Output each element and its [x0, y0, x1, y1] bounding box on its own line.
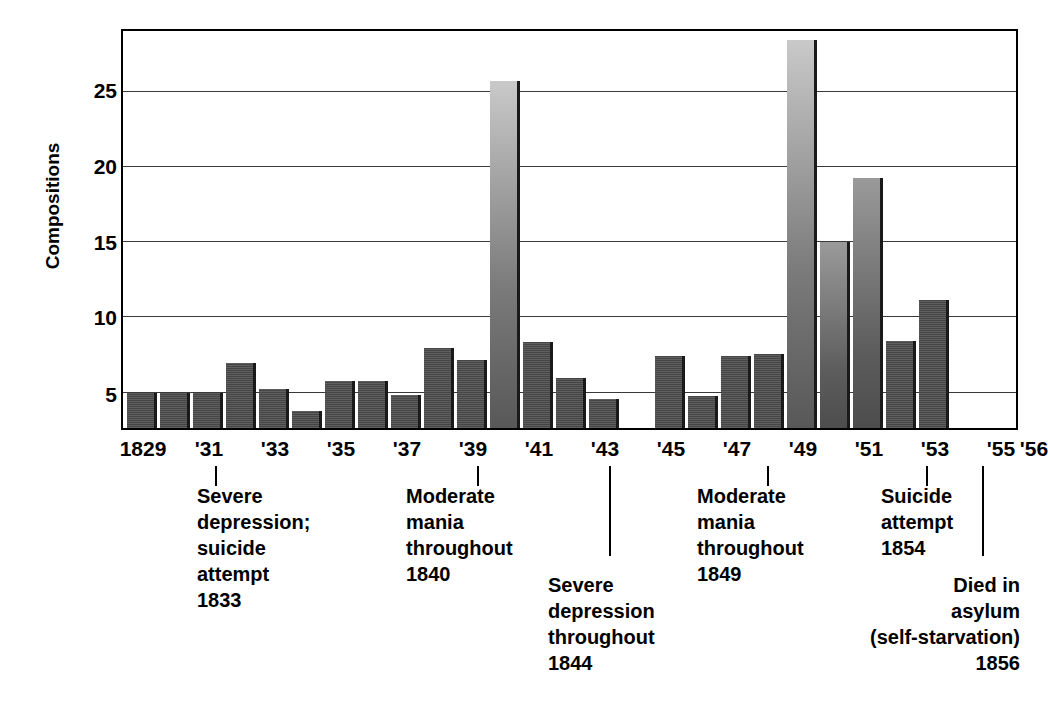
bar-1833: [259, 389, 289, 428]
bar-1849: [787, 40, 817, 428]
bar-series: [123, 31, 1016, 428]
y-axis-tick-labels: 25 20 15 10 5: [61, 29, 117, 430]
x-tick-1835: '35: [327, 437, 355, 461]
bar-1847: [721, 356, 751, 428]
x-tick-1837: '37: [393, 437, 421, 461]
plot-area: [121, 29, 1018, 430]
bar-1829: [127, 393, 157, 428]
bar-1846: [688, 396, 718, 428]
x-tick-1855: '55: [987, 437, 1015, 461]
bar-1834: [292, 411, 322, 428]
bar-1836: [358, 381, 388, 428]
x-tick-1845: '45: [657, 437, 685, 461]
x-tick-1843: '43: [591, 437, 619, 461]
bar-1850: [820, 242, 850, 428]
bar-1838: [424, 348, 454, 428]
x-tick-1851: '51: [855, 437, 883, 461]
y-tick-20: 20: [71, 155, 117, 176]
y-tick-25: 25: [71, 79, 117, 100]
bar-1851: [853, 178, 883, 428]
bar-1853: [919, 300, 949, 428]
y-tick-15: 15: [71, 231, 117, 252]
bar-1840: [490, 81, 520, 428]
annotation-1833: Severe depression; suicide attempt 1833: [197, 483, 310, 613]
bar-1852: [886, 341, 916, 428]
leader-line-1856: [982, 466, 984, 556]
bar-1848: [754, 354, 784, 428]
x-tick-1833: '33: [261, 437, 289, 461]
x-tick-1856: '56: [1020, 437, 1048, 461]
bar-1839: [457, 360, 487, 428]
bar-1835: [325, 381, 355, 428]
bar-1831: [193, 393, 223, 428]
bar-1832: [226, 363, 256, 428]
bar-1843: [589, 399, 619, 428]
y-tick-10: 10: [71, 307, 117, 328]
annotation-1844: Severe depression throughout 1844: [548, 572, 655, 676]
annotation-1840: Moderate mania throughout 1840: [406, 483, 513, 587]
leader-line-1844: [609, 466, 611, 556]
x-tick-1831: '31: [195, 437, 223, 461]
x-tick-1829: 1829: [120, 437, 167, 461]
bar-1842: [556, 378, 586, 428]
x-tick-1841: '41: [525, 437, 553, 461]
bar-1841: [523, 342, 553, 428]
x-axis-tick-labels: 1829'31'33'35'37'39'41'43'45'47'49'51'53…: [0, 437, 1042, 467]
bar-1837: [391, 395, 421, 428]
y-tick-5: 5: [71, 383, 117, 404]
annotation-1854: Suicide attempt 1854: [881, 483, 953, 561]
x-tick-1849: '49: [789, 437, 817, 461]
bar-1845: [655, 356, 685, 428]
x-tick-1853: '53: [921, 437, 949, 461]
x-tick-1847: '47: [723, 437, 751, 461]
annotation-1856: Died in asylum (self-starvation) 1856: [782, 572, 1020, 676]
x-tick-1839: '39: [459, 437, 487, 461]
bar-1830: [160, 393, 190, 428]
